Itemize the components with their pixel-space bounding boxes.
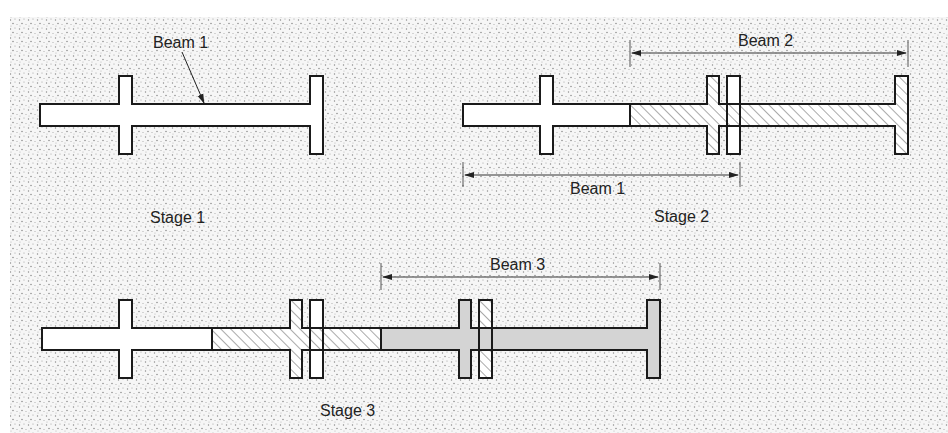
stage-1-caption: Stage 1 bbox=[150, 209, 205, 226]
stage-2-caption: Stage 2 bbox=[654, 208, 709, 225]
stage-2-beam-2-label: Beam 2 bbox=[738, 32, 793, 49]
stage-2-beam-1-label: Beam 1 bbox=[570, 180, 625, 197]
diagram-canvas: Beam 1 Stage 1 Beam 2 Beam 1 Stage 2 bbox=[0, 0, 948, 433]
stage-3-caption: Stage 3 bbox=[320, 402, 375, 419]
stage-1-beam-label: Beam 1 bbox=[153, 34, 208, 51]
beam-stage-diagram: Beam 1 Stage 1 Beam 2 Beam 1 Stage 2 bbox=[0, 0, 948, 433]
stage-3-beam-3-label: Beam 3 bbox=[490, 256, 545, 273]
